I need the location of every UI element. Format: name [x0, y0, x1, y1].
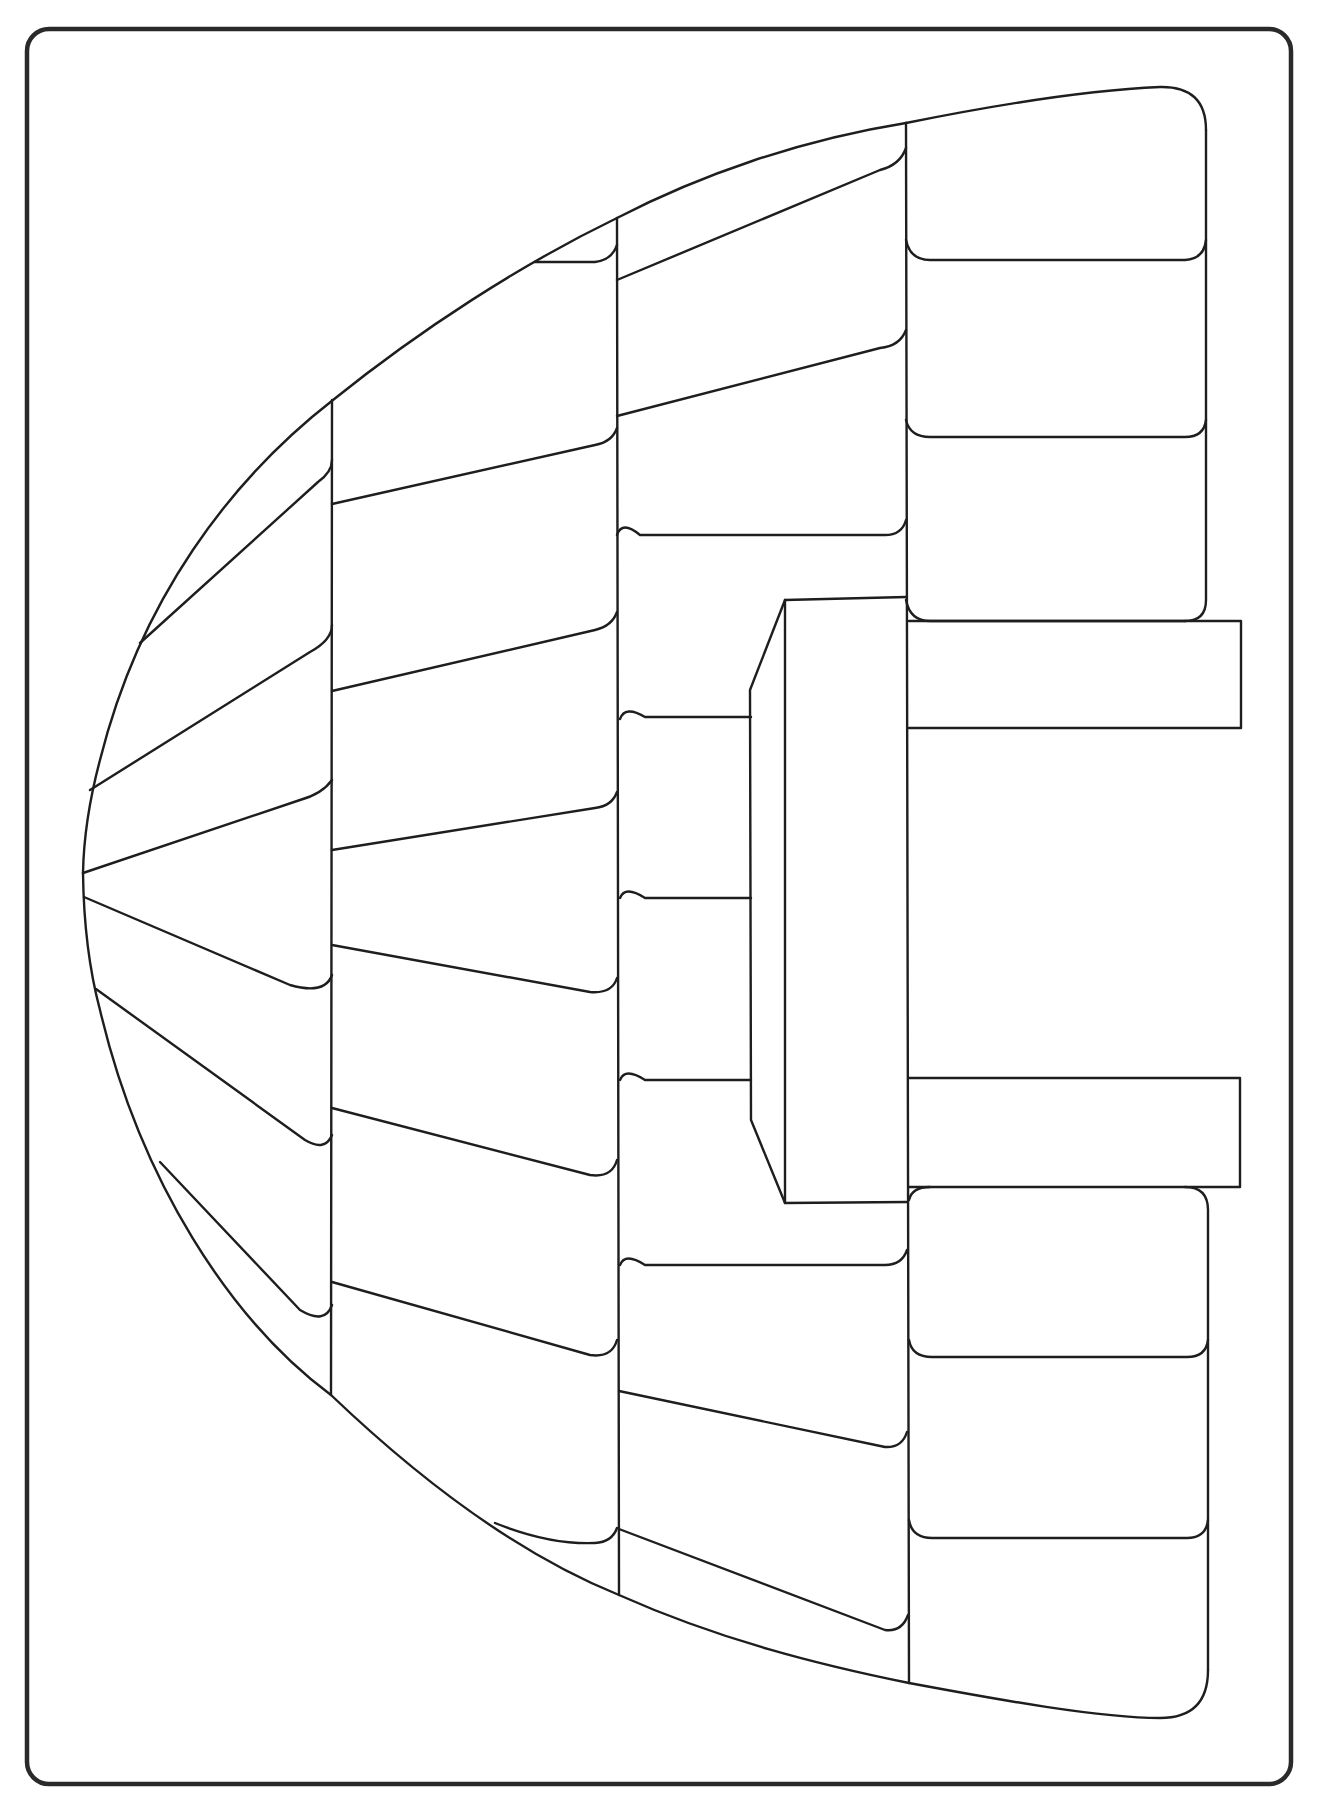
column-3-blocks — [617, 148, 908, 1630]
column-dividers — [331, 123, 909, 1683]
column-1-blocks — [83, 460, 332, 1316]
igloo-outline — [83, 87, 1208, 1718]
entrance-tunnel — [750, 597, 1241, 1203]
page-frame — [27, 29, 1291, 1784]
column-2-blocks — [332, 245, 617, 1543]
column-4-blocks — [906, 240, 1208, 1538]
igloo-drawing — [0, 0, 1322, 1809]
